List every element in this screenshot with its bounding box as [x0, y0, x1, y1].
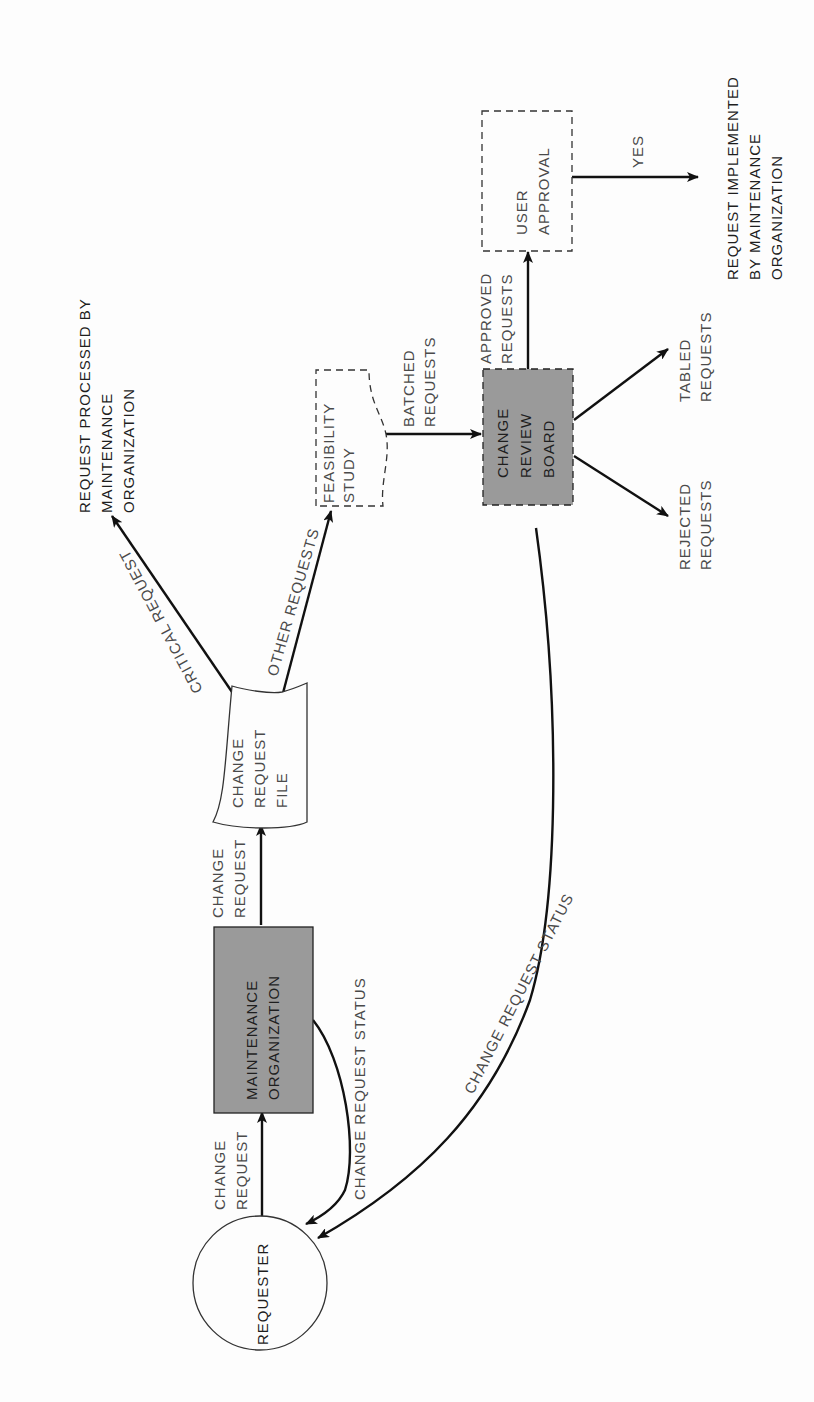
edge-label-requester-change-request: CHANGE REQUEST — [211, 1130, 250, 1210]
maintenance-organization-node — [214, 927, 313, 1113]
edge-label-maintenance-change-request: CHANGE REQUEST — [209, 838, 248, 918]
outcome-implemented-label: REQUEST IMPLEMENTED BY MAINTENANCE ORGAN… — [724, 71, 785, 280]
outcome-rejected-label: REJECTED REQUESTS — [676, 478, 714, 570]
edge-label-critical-request: CRITICAL REQUEST — [115, 547, 205, 697]
edge-label-approved-requests: APPROVED REQUESTS — [477, 267, 515, 364]
outcome-processed-label: REQUEST PROCESSED BY MAINTENANCE ORGANIZ… — [76, 293, 137, 513]
edge-critical-request — [112, 516, 232, 692]
outcome-tabled-label: TABLED REQUESTS — [676, 311, 714, 402]
edge-label-batched-requests: BATCHED REQUESTS — [400, 336, 438, 427]
edge-label-yes: YES — [629, 135, 646, 168]
edge-label-board-status: CHANGE REQUEST STATUS — [461, 890, 577, 1096]
edge-tabled — [574, 349, 668, 420]
edge-label-maintenance-status: CHANGE REQUEST STATUS — [351, 977, 368, 1200]
edge-rejected — [574, 456, 668, 516]
change-request-flow-diagram: REQUESTER MAINTENANCE ORGANIZATION CHANG… — [0, 0, 814, 1402]
requester-label: REQUESTER — [254, 1243, 271, 1345]
